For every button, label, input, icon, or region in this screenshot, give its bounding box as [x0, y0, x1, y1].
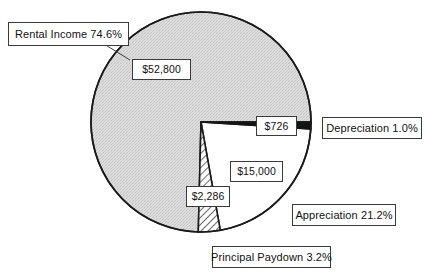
value-label-depreciation-text: $726 — [265, 121, 289, 132]
value-label-principal-paydown-text: $2,286 — [192, 191, 225, 202]
value-label-depreciation[interactable]: $726 — [256, 116, 297, 136]
value-label-appreciation-text: $15,000 — [237, 166, 276, 177]
callout-appreciation[interactable]: Appreciation 21.2% — [292, 204, 396, 226]
callout-depreciation[interactable]: Depreciation 1.0% — [322, 117, 422, 139]
callout-rental-income[interactable]: Rental Income 74.6% — [8, 22, 129, 46]
callout-depreciation-label: Depreciation 1.0% — [326, 123, 418, 134]
value-label-rental-income-text: $52,800 — [142, 64, 181, 75]
callout-rental-income-label: Rental Income 74.6% — [15, 29, 122, 40]
pie-chart: Rental Income 74.6% $52,800 $726 Depreci… — [0, 0, 428, 280]
value-label-principal-paydown[interactable]: $2,286 — [186, 186, 230, 207]
callout-appreciation-label: Appreciation 21.2% — [295, 210, 392, 221]
value-label-appreciation[interactable]: $15,000 — [230, 161, 283, 182]
callout-principal-paydown-label: Principal Paydown 3.2% — [211, 252, 332, 263]
value-label-rental-income[interactable]: $52,800 — [132, 59, 191, 80]
callout-principal-paydown[interactable]: Principal Paydown 3.2% — [212, 246, 331, 268]
